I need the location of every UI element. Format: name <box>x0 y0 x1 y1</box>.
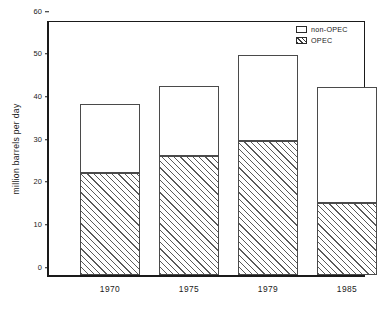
y-tick-mark <box>45 139 49 140</box>
y-axis-title: million barrels per day <box>11 104 21 195</box>
bar-segment-opec <box>159 156 219 276</box>
y-tick-label: 10 <box>33 221 45 229</box>
x-tick-label-1975: 1975 <box>179 275 199 294</box>
y-tick-0: 0 <box>38 264 49 272</box>
legend-label: non-OPEC <box>311 26 348 33</box>
y-tick-label: 50 <box>33 50 45 58</box>
y-tick-mark <box>45 267 49 268</box>
y-tick-label: 0 <box>38 264 45 272</box>
x-tick-label-1979: 1979 <box>258 275 278 294</box>
legend-item-opec: OPEC <box>296 36 348 45</box>
legend-item-non-opec: non-OPEC <box>296 25 348 34</box>
bar-1975 <box>159 86 219 275</box>
legend-swatch-hatched-icon <box>296 37 307 44</box>
bar-segment-non-opec <box>317 87 377 203</box>
chart-legend: non-OPEC OPEC <box>296 25 348 47</box>
y-tick-label: 40 <box>33 93 45 101</box>
plot-area: 0 10 20 30 40 50 60 <box>47 21 365 277</box>
bar-segment-non-opec <box>80 104 140 173</box>
x-tick-label-1970: 1970 <box>100 275 120 294</box>
stacked-bar-chart: million barrels per day 0 10 20 30 40 50 <box>0 0 385 315</box>
x-tick-label-1985: 1985 <box>337 275 357 294</box>
bar-segment-non-opec <box>238 55 298 140</box>
y-tick-label: 20 <box>33 178 45 186</box>
bar-segment-non-opec <box>159 86 219 155</box>
y-tick-40: 40 <box>33 93 49 101</box>
legend-label: OPEC <box>311 37 332 44</box>
bar-segment-opec <box>238 141 298 275</box>
legend-swatch-open-icon <box>296 26 307 33</box>
y-tick-label: 30 <box>33 136 45 144</box>
y-tick-mark <box>45 224 49 225</box>
y-tick-30: 30 <box>33 136 49 144</box>
bar-1979 <box>238 55 298 275</box>
y-tick-50: 50 <box>33 50 49 58</box>
y-tick-20: 20 <box>33 178 49 186</box>
y-tick-10: 10 <box>33 221 49 229</box>
y-tick-mark <box>45 54 49 55</box>
y-tick-mark <box>45 11 49 12</box>
bar-segment-opec <box>317 203 377 276</box>
y-tick-mark <box>45 182 49 183</box>
y-tick-60: 60 <box>33 8 49 16</box>
bar-segment-opec <box>80 173 140 275</box>
y-tick-mark <box>45 96 49 97</box>
y-tick-label: 60 <box>33 8 45 16</box>
bar-1985 <box>317 87 377 275</box>
bar-1970 <box>80 104 140 276</box>
